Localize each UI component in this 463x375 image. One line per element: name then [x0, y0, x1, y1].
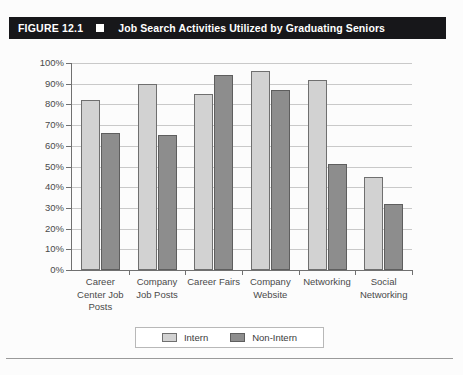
x-axis-tick: [185, 270, 186, 275]
x-axis-tick: [355, 270, 356, 275]
y-axis-tick-label: 70%: [28, 119, 64, 130]
chart-legend: Intern Non-Intern: [135, 327, 324, 348]
y-axis-tick-label: 20%: [28, 223, 64, 234]
figure-title: Job Search Activities Utilized by Gradua…: [118, 22, 385, 34]
bar-nonintern: [101, 133, 120, 270]
bottom-divider: [6, 358, 453, 359]
bar-intern: [364, 177, 383, 270]
x-axis-tick: [242, 270, 243, 275]
y-axis-tick-label: 60%: [28, 140, 64, 151]
bar-nonintern: [384, 204, 403, 270]
x-axis-category-label: Company Website: [242, 276, 299, 301]
bar-nonintern: [271, 90, 290, 270]
y-axis-labels: 0%10%20%30%40%50%60%70%80%90%100%: [24, 63, 64, 270]
x-axis-category-label: Social Networking: [355, 276, 412, 301]
figure-container: FIGURE 12.1 Job Search Activities Utiliz…: [0, 0, 463, 375]
bar-nonintern: [328, 164, 347, 270]
y-axis-tick-label: 90%: [28, 78, 64, 89]
x-axis-category-label: Company Job Posts: [129, 276, 186, 301]
bar-nonintern: [158, 135, 177, 270]
legend-swatch-intern: [162, 333, 177, 342]
filled-square-icon: [96, 24, 104, 32]
bar-series-layer: [72, 63, 412, 270]
figure-number: FIGURE 12.1: [18, 22, 83, 34]
x-axis-tick: [299, 270, 300, 275]
bar-nonintern: [214, 75, 233, 270]
x-axis-category-label: Career Center Job Posts: [72, 276, 129, 314]
y-axis-tick-label: 10%: [28, 243, 64, 254]
chart-plot-area: 0%10%20%30%40%50%60%70%80%90%100% Career…: [0, 48, 463, 338]
bar-intern: [81, 100, 100, 270]
bar-intern: [308, 80, 327, 270]
x-axis-category-label: Career Fairs: [185, 276, 242, 289]
bar-intern: [251, 71, 270, 270]
x-axis-category-labels: Career Center Job PostsCompany Job Posts…: [72, 276, 412, 334]
y-axis-tick-label: 40%: [28, 181, 64, 192]
y-axis-tick-label: 0%: [28, 264, 64, 275]
figure-title-bar: FIGURE 12.1 Job Search Activities Utiliz…: [9, 17, 446, 39]
bar-intern: [194, 94, 213, 270]
legend-label-intern: Intern: [184, 332, 208, 343]
legend-item-nonintern: Non-Intern: [230, 332, 297, 343]
y-axis-tick: [66, 270, 72, 271]
legend-label-nonintern: Non-Intern: [252, 332, 297, 343]
y-axis-tick-label: 80%: [28, 98, 64, 109]
x-axis-category-label: Networking: [299, 276, 356, 289]
bar-intern: [138, 84, 157, 270]
x-axis-tick: [412, 270, 413, 275]
y-axis-tick-label: 100%: [28, 57, 64, 68]
x-axis-tick: [129, 270, 130, 275]
y-axis-tick-label: 30%: [28, 202, 64, 213]
legend-swatch-nonintern: [230, 333, 245, 342]
y-axis-tick-label: 50%: [28, 161, 64, 172]
legend-item-intern: Intern: [162, 332, 208, 343]
